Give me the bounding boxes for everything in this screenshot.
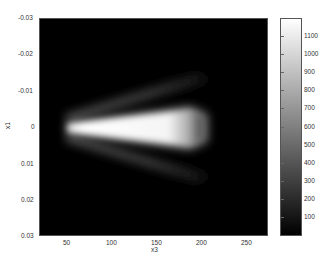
colorbar-tick-label: 600 [304,123,315,130]
ytick-label: -0.02 [18,50,33,57]
ytick-label: 0 [31,123,35,130]
colorbar-tick-label: 1000 [304,50,318,57]
ytick-label: -0.03 [18,14,33,21]
colorbar-tick-label: 400 [304,159,315,166]
heatmap-image [40,19,268,236]
colorbar-tick-label: 100 [304,213,315,220]
ytick-label: 0.03 [21,232,34,239]
colorbar-tick-label: 800 [304,86,315,93]
colorbar-tick-label: 200 [304,195,315,202]
y-axis-label: x1 [4,122,11,129]
colorbar-tick-label: 500 [304,141,315,148]
xtick-label: 100 [106,239,117,246]
ytick-label: 0.02 [21,196,34,203]
xtick-label: 200 [196,239,207,246]
xtick-label: 250 [241,239,252,246]
xtick-label: 50 [63,239,70,246]
colorbar-tick-label: 1100 [304,32,318,39]
colorbar [280,18,302,236]
heatmap-plot-area [39,18,268,236]
ytick-label: 0.01 [21,160,34,167]
xtick-label: 150 [151,239,162,246]
ytick-label: -0.01 [18,87,33,94]
colorbar-tick-label: 900 [304,68,315,75]
x-axis-label: x3 [151,246,158,253]
colorbar-tick-label: 300 [304,177,315,184]
colorbar-tick-label: 700 [304,104,315,111]
